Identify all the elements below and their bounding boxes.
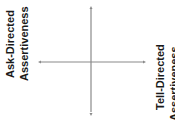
arrow-down-icon <box>90 113 93 116</box>
arrow-right-icon <box>143 61 146 64</box>
horizontal-axis <box>38 61 146 64</box>
vertical-axis <box>90 6 93 116</box>
arrow-left-icon <box>38 61 41 64</box>
axis-crosshair <box>0 0 175 121</box>
arrow-up-icon <box>90 6 93 9</box>
